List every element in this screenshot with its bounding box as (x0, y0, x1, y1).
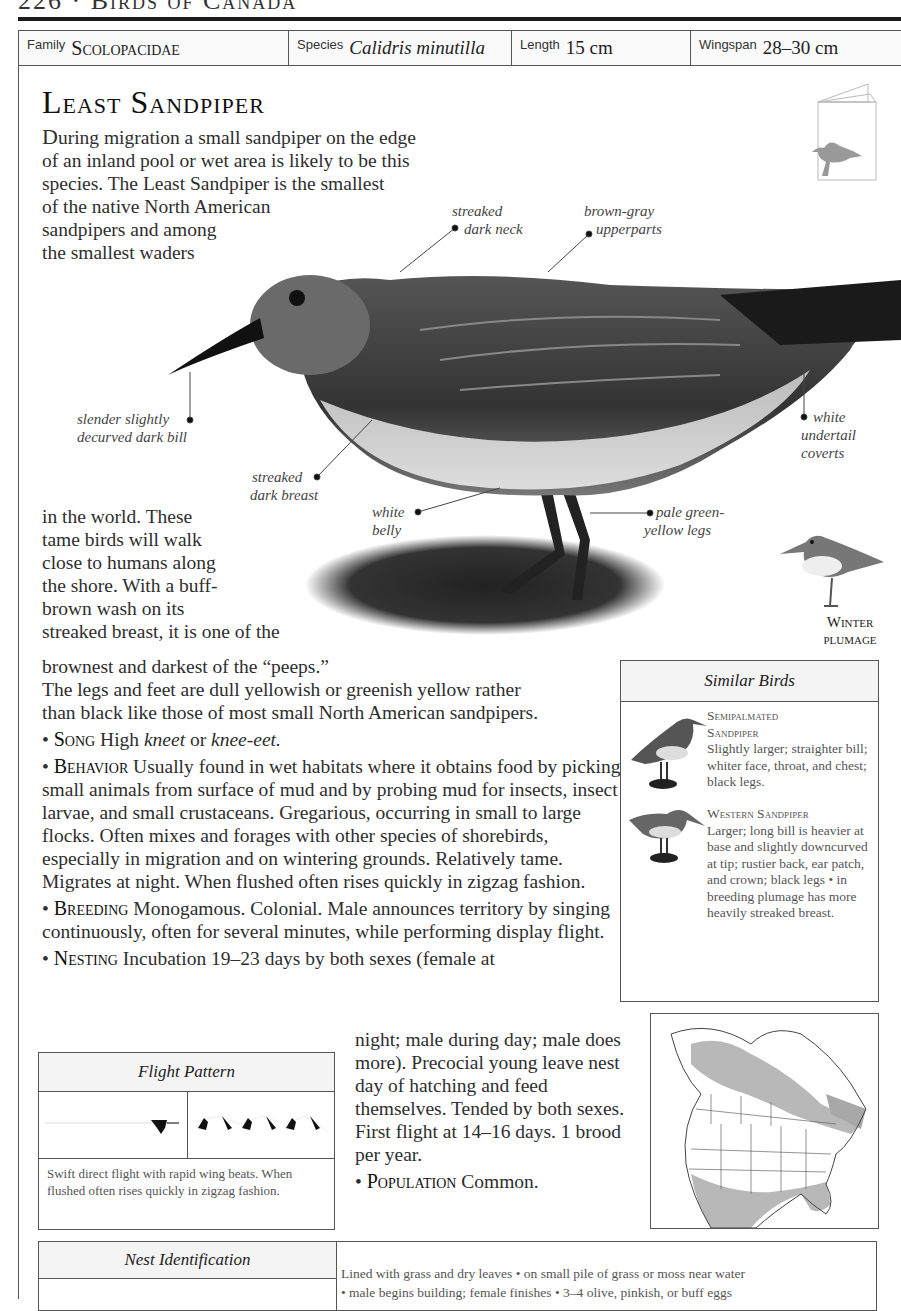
callout-upperparts: brown-gray upperparts (584, 202, 662, 238)
callout-text: streaked (452, 202, 523, 220)
similar-bird-name: Semipalmated (707, 708, 872, 725)
callout-text: yellow legs (644, 521, 724, 539)
callout-breast: streaked dark breast (250, 468, 318, 504)
nest-identification-header: Nest Identification (39, 1242, 337, 1310)
nest-identification-text: Lined with grass and dry leaves • on sma… (337, 1242, 745, 1310)
intro-line: The legs and feet are dull yellowish or … (42, 678, 622, 701)
callout-bill: slender slightly decurved dark bill (77, 410, 187, 446)
callout-belly: white belly (372, 503, 405, 539)
callout-text: dark breast (250, 486, 318, 504)
nesting-text: Incubation 19–23 days by both sexes (fem… (123, 948, 495, 969)
similar-bird-name: Western Sandpiper (707, 806, 872, 823)
behavior-section: • Behavior Usually found in wet habitats… (42, 755, 622, 893)
range-map (650, 1013, 879, 1229)
callout-undertail: white undertail coverts (801, 408, 856, 462)
song-text: or (185, 729, 211, 750)
similar-birds-heading: Similar Birds (621, 661, 878, 702)
callout-text: streaked (250, 468, 318, 486)
nest-line: Lined with grass and dry leaves • on sma… (341, 1264, 745, 1283)
intro-line: streaked breast, it is one of the (42, 620, 322, 643)
flight-pattern-illustrations (39, 1092, 334, 1159)
breeding-section: • Breeding Monogamous. Colonial. Male an… (42, 897, 622, 943)
population-text: Common. (461, 1171, 538, 1192)
breeding-heading: Breeding (54, 897, 129, 919)
intro-line: tame birds will walk (42, 528, 322, 551)
flight-pattern-heading: Flight Pattern (39, 1053, 334, 1092)
nesting-continued: night; male during day; male does more).… (355, 1028, 625, 1193)
intro-line: than black like those of most small Nort… (42, 701, 622, 724)
winter-plumage-label: Winter plumage (810, 614, 890, 648)
population-section: • Population Common. (355, 1170, 625, 1193)
main-text: brownest and darkest of the “peeps.” The… (42, 655, 622, 970)
callout-legs: pale green- yellow legs (644, 503, 724, 539)
callout-neck: streaked dark neck (452, 202, 523, 238)
song-heading: Song (54, 728, 95, 750)
nest-identification-heading: Nest Identification (39, 1242, 336, 1279)
callout-text: undertail (801, 426, 856, 444)
similar-bird-description: Larger; long bill is heavier at base and… (707, 823, 872, 922)
callout-text: belly (372, 521, 405, 539)
nest-line: • male begins building; female finishes … (341, 1283, 745, 1302)
similar-bird-item: Western Sandpiper Larger; long bill is h… (621, 798, 878, 922)
callout-text: pale green- (644, 503, 724, 521)
similar-bird-text: Semipalmated Sandpiper Slightly larger; … (707, 708, 872, 798)
callout-text: decurved dark bill (77, 428, 187, 446)
similar-bird-item: Semipalmated Sandpiper Slightly larger; … (621, 702, 878, 798)
callout-text: white (372, 503, 405, 521)
western-sandpiper-illustration (627, 806, 707, 896)
callout-text: white (801, 408, 856, 426)
nest-identification-box: Nest Identification Lined with grass and… (38, 1241, 877, 1311)
intro-line: in the world. These (42, 505, 322, 528)
label-line: plumage (810, 631, 890, 648)
semipalmated-sandpiper-illustration (627, 708, 707, 798)
callout-text: coverts (801, 444, 856, 462)
nesting-text: night; male during day; male does more).… (355, 1028, 625, 1166)
nesting-section: • Nesting Incubation 19–23 days by both … (42, 947, 622, 970)
similar-bird-description: Slightly larger; straighter bill; whiter… (707, 741, 872, 791)
label-line: Winter (810, 614, 890, 631)
callout-text: slender slightly (77, 410, 187, 428)
zigzag-flight-illustration (188, 1092, 336, 1158)
intro-line: brownest and darkest of the “peeps.” (42, 655, 622, 678)
song-text: High (100, 729, 144, 750)
flight-pattern-caption: Swift direct flight with rapid wing beat… (39, 1159, 334, 1205)
nesting-heading: Nesting (54, 947, 118, 969)
callout-text: dark neck (452, 220, 523, 238)
behavior-heading: Behavior (54, 755, 129, 777)
behavior-text: Usually found in wet habitats where it o… (42, 756, 621, 892)
breeding-text: Monogamous. Colonial. Male announces ter… (42, 898, 610, 942)
intro-line: brown wash on its (42, 597, 322, 620)
song-call: kneet (144, 729, 185, 750)
intro-line: close to humans along (42, 551, 322, 574)
intro-line: the shore. With a buff- (42, 574, 322, 597)
similar-bird-name: Sandpiper (707, 725, 872, 742)
flight-pattern-box: Flight Pattern Swift dir (38, 1052, 335, 1230)
direct-flight-illustration (39, 1092, 188, 1158)
population-heading: Population (367, 1170, 457, 1192)
winter-plumage-illustration (778, 528, 886, 612)
intro-paragraph-b: in the world. These tame birds will walk… (42, 505, 322, 643)
song-call: knee-eet. (211, 729, 281, 750)
similar-bird-text: Western Sandpiper Larger; long bill is h… (707, 806, 872, 922)
callout-text: upperparts (584, 220, 662, 238)
song-section: • Song High kneet or knee-eet. (42, 728, 622, 751)
similar-birds-box: Similar Birds Semipalmated Sandpiper Sli… (620, 660, 879, 1002)
callout-text: brown-gray (584, 202, 662, 220)
